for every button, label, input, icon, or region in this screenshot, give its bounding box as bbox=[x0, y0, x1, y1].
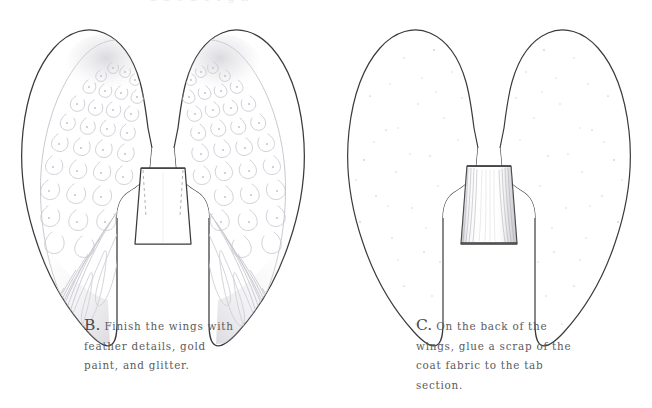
step-text-c: On the back of the wings, glue a scrap o… bbox=[416, 320, 571, 391]
step-text-b: Finish the wings with feather details, g… bbox=[84, 320, 234, 371]
wing-left-c bbox=[348, 30, 478, 346]
wing-left-b bbox=[22, 30, 152, 346]
step-letter-b: B. bbox=[84, 316, 100, 334]
caption-b: B. Finish the wings with feather details… bbox=[84, 316, 244, 376]
page-canvas: a b c d e f g h n o p bbox=[0, 0, 652, 408]
step-letter-c: C. bbox=[416, 316, 432, 334]
wing-right-b bbox=[174, 30, 304, 346]
caption-c: C. On the back of the wings, glue a scra… bbox=[416, 316, 576, 395]
wing-right-c bbox=[500, 30, 630, 346]
